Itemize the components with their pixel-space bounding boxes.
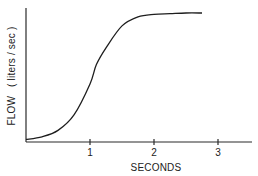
x-tick-label-3: 3 (215, 147, 221, 158)
x-tick-label-2: 2 (151, 147, 157, 158)
chart: 123 SECONDS FLOW ( liters / sec ) (0, 0, 258, 176)
flow-curve (26, 13, 202, 139)
y-axis-label: FLOW ( liters / sec ) (6, 26, 17, 125)
x-axis-label: SECONDS (131, 162, 182, 173)
x-tick-label-1: 1 (87, 147, 93, 158)
